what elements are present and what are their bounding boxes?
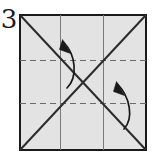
fold-diagram [0, 0, 156, 165]
origami-step-figure: 3 [0, 0, 156, 165]
